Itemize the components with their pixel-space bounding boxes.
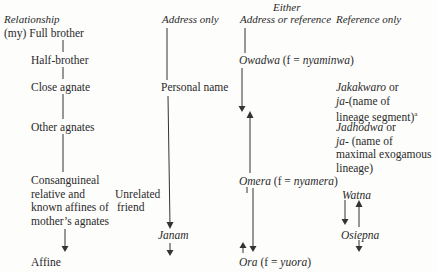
ja-prefix: ja- (336, 135, 349, 147)
term-watna: Watna (342, 189, 371, 203)
term-other-agnates: Other agnates (31, 121, 95, 135)
ja-description: (name of (349, 95, 390, 107)
header-relationship: Relationship (4, 13, 60, 27)
term-ja-maximal-lineage: ja- (name of (336, 135, 393, 149)
or-word: or (386, 81, 398, 93)
owadwa-female-prefix: (f = (283, 54, 303, 66)
footnote-mark: a (414, 110, 417, 118)
term-omera: Omera (f = nyamera) (239, 175, 338, 189)
close-paren: ) (350, 54, 354, 66)
term-owadwa: Owadwa (f = nyaminwa) (239, 54, 354, 68)
close-paren: ) (334, 175, 338, 187)
term-consanguineal-line-1: Consanguineal (31, 174, 99, 188)
term-consanguineal-line-2: relative and (31, 188, 85, 202)
term-jakakwaro: Jakakwaro or (336, 81, 399, 95)
term-ja-lineage-segment: ja-(name of (336, 95, 390, 109)
omera-female-term: nyamera (294, 175, 334, 187)
term-janam: Janam (158, 229, 189, 243)
ja-description: (name of (349, 135, 393, 147)
owadwa-female-term: nyaminwa (303, 54, 350, 66)
term-half-brother: Half-brother (31, 54, 88, 68)
arrowhead-down-icon (167, 250, 174, 256)
term-consanguineal-line-3: known affines of (31, 201, 109, 215)
term-consanguineal-line-4: mother’s agnates (31, 215, 109, 229)
close-paren: ) (307, 256, 311, 268)
kinship-terms-diagram: Relationship Address only Either Address… (0, 0, 437, 272)
omera-word: Omera (239, 175, 271, 187)
term-personal-name: Personal name (161, 81, 228, 95)
term-lineage: lineage) (336, 162, 373, 176)
term-unrelated: Unrelated (115, 188, 160, 202)
header-address-or-reference: Address or reference (240, 13, 331, 27)
arrowhead-down-icon (62, 246, 69, 252)
arrow-down-icon (168, 96, 170, 226)
or-word: or (383, 121, 395, 133)
arrowhead-down-icon (342, 219, 349, 225)
term-full-brother: (my) Full brother (4, 27, 84, 41)
ora-female-term: yuora (280, 256, 307, 268)
term-osiepna: Osiepna (341, 229, 379, 243)
arrowhead-down-icon (250, 246, 257, 252)
ora-word: Ora (239, 256, 258, 268)
header-address-only: Address only (162, 13, 219, 27)
ora-female-prefix: (f = (260, 256, 280, 268)
term-maximal-exogamous: maximal exogamous (336, 148, 432, 162)
term-affine: Affine (31, 256, 61, 270)
header-reference-only: Reference only (336, 13, 401, 27)
jadhodwa-word: Jadhodwa (336, 121, 383, 133)
term-ora: Ora (f = yuora) (239, 256, 311, 270)
arrowhead-down-icon (167, 222, 174, 229)
term-jadhodwa: Jadhodwa or (336, 121, 396, 135)
term-close-agnate: Close agnate (31, 81, 90, 95)
arrowhead-up-icon (240, 242, 247, 248)
arrowhead-down-icon (356, 246, 363, 252)
arrowhead-down-icon (239, 106, 246, 112)
arrowhead-up-icon (247, 111, 254, 118)
owadwa-word: Owadwa (239, 54, 280, 66)
term-friend: friend (117, 201, 144, 215)
ja-prefix: ja- (336, 95, 349, 107)
omera-female-prefix: (f = (274, 175, 294, 187)
jakakwaro-word: Jakakwaro (336, 81, 386, 93)
